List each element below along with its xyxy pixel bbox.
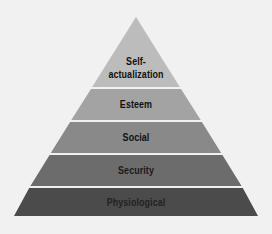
label-self-actualization-line1: Self- bbox=[20, 55, 251, 67]
label-self-actualization-line2: actualization bbox=[20, 68, 251, 80]
label-security: Security bbox=[20, 164, 251, 176]
label-social: Social bbox=[20, 131, 251, 143]
label-physiological: Physiological bbox=[20, 196, 251, 208]
label-esteem: Esteem bbox=[20, 98, 251, 110]
